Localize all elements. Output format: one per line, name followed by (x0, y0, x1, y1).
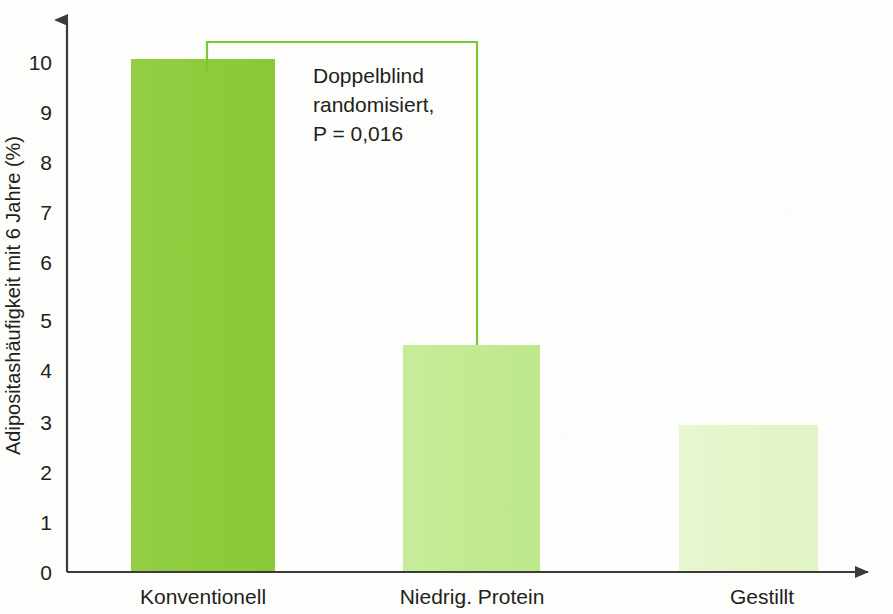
y-tick-9: 9 (40, 101, 52, 124)
bars-group (131, 59, 818, 572)
annotation-text-block: Doppelblind randomisiert, P = 0,016 (313, 64, 434, 145)
y-tick-labels: 10 9 8 7 6 5 4 3 2 1 0 (29, 51, 53, 584)
y-tick-6: 6 (40, 251, 52, 274)
y-tick-4: 4 (40, 359, 52, 382)
annotation-line-1: Doppelblind (313, 64, 424, 87)
y-tick-1: 1 (40, 511, 52, 534)
annotation-line-3: P = 0,016 (313, 122, 403, 145)
y-tick-7: 7 (40, 201, 52, 224)
y-tick-0: 0 (40, 561, 52, 584)
category-label-konventionell: Konventionell (140, 585, 266, 608)
y-axis-title: Adipositashäufigkeit mit 6 Jahre (%) (2, 136, 24, 455)
bar-gestillt (679, 425, 818, 572)
y-tick-2: 2 (40, 461, 52, 484)
y-tick-10: 10 (29, 51, 52, 74)
bar-konventionell (131, 59, 275, 572)
bar-niedrig-protein (403, 345, 540, 572)
y-tick-5: 5 (40, 309, 52, 332)
y-tick-8: 8 (40, 151, 52, 174)
x-category-labels: Konventionell Niedrig. Protein Gestillt (140, 585, 794, 608)
annotation-line-2: randomisiert, (313, 93, 434, 116)
chart-canvas: 10 9 8 7 6 5 4 3 2 1 0 Adipositashäufigk… (0, 0, 893, 614)
y-tick-3: 3 (40, 411, 52, 434)
bar-chart-figure: 10 9 8 7 6 5 4 3 2 1 0 Adipositashäufigk… (0, 0, 893, 614)
category-label-niedrig-protein: Niedrig. Protein (400, 585, 545, 608)
category-label-gestillt: Gestillt (730, 585, 794, 608)
